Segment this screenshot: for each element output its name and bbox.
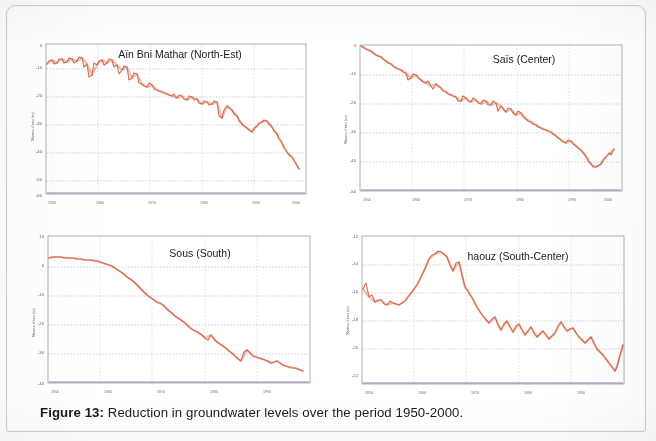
x-tick-label: 1960 bbox=[412, 198, 420, 202]
x-tick-label: 1960 bbox=[104, 390, 112, 394]
x-tick-label: 1990 bbox=[568, 198, 576, 202]
y-tick-label: -14 bbox=[352, 261, 359, 266]
y-tick-label: -30 bbox=[36, 121, 43, 126]
x-axis-ticks: 1950 1960 1970 1980 1990 2000 bbox=[363, 198, 612, 202]
x-tick-label: 1990 bbox=[252, 201, 260, 205]
series-line-shadow bbox=[361, 46, 614, 167]
x-tick-label: 1970 bbox=[148, 201, 156, 205]
y-tick-label: -10 bbox=[350, 71, 357, 76]
x-axis-ticks: 1950 1960 1970 1980 1990 2000 bbox=[48, 201, 300, 205]
series-line-shadow bbox=[47, 58, 299, 169]
x-tick-label: 1980 bbox=[516, 198, 524, 202]
x-axis-ticks: 1950 1960 1970 1980 1990 bbox=[365, 391, 585, 395]
x-tick-label: 1970 bbox=[464, 198, 472, 202]
chart-svg-haouz: -12 -14 -16 -18 -20 -22 Niveau d'eau (m) bbox=[340, 227, 640, 402]
y-tick-label: -22 bbox=[352, 373, 359, 378]
y-tick-label: -16 bbox=[352, 289, 359, 294]
y-tick-label: -40 bbox=[36, 149, 43, 154]
chart-svg-sous: 10 0 -10 -20 -30 -40 Niveau d'eau (m) bbox=[28, 227, 328, 402]
y-axis-ticks: 10 0 -10 -20 -30 -40 bbox=[38, 234, 45, 386]
y-axis-ticks: 0 -10 -20 -30 -40 -50 -60 bbox=[36, 43, 43, 198]
y-tick-label: -12 bbox=[352, 234, 359, 239]
y-tick-label: -50 bbox=[36, 177, 43, 182]
y-axis-ticks: -12 -14 -16 -18 -20 -22 bbox=[352, 234, 359, 378]
y-tick-label: 0 bbox=[40, 43, 43, 48]
x-tick-label: 2000 bbox=[292, 201, 300, 205]
x-tick-label: 1950 bbox=[363, 198, 371, 202]
chart-panel-ain-bni-mathar: 0 -10 -20 -30 -40 -50 -60 Niveau d'eau (… bbox=[28, 36, 328, 211]
y-tick-label: 0 bbox=[354, 43, 357, 48]
plot-frame bbox=[360, 45, 622, 191]
y-tick-label: -20 bbox=[350, 100, 357, 105]
y-tick-label: -20 bbox=[36, 93, 43, 98]
series-line-sais bbox=[361, 46, 614, 167]
x-tick-label: 1960 bbox=[96, 201, 104, 205]
y-axis-title: Niveau d'eau (m) bbox=[31, 111, 35, 141]
panel-title-sous: Sous (South) bbox=[169, 247, 230, 259]
y-tick-label: -20 bbox=[352, 345, 359, 350]
figure-caption-label: Figure 13: bbox=[40, 405, 104, 420]
x-tick-label: 1980 bbox=[524, 391, 532, 395]
panel-title-sais: Saïs (Center) bbox=[493, 53, 555, 65]
y-axis-ticks: 0 -10 -20 -30 -40 -50 bbox=[350, 43, 357, 194]
y-tick-label: -10 bbox=[38, 292, 45, 297]
series-line-haouz bbox=[363, 251, 623, 371]
y-tick-label: 10 bbox=[39, 234, 44, 239]
x-tick-label: 1970 bbox=[471, 391, 479, 395]
x-tick-label: 1970 bbox=[157, 390, 165, 394]
x-tick-label: 1950 bbox=[365, 391, 373, 395]
chart-svg-ain-bni-mathar: 0 -10 -20 -30 -40 -50 -60 Niveau d'eau (… bbox=[28, 36, 328, 211]
chart-svg-sais: 0 -10 -20 -30 -40 -50 Niveau d'eau (m) bbox=[340, 36, 640, 211]
y-tick-label: -30 bbox=[38, 350, 45, 355]
x-tick-label: 2000 bbox=[604, 198, 612, 202]
y-axis-title: Niveau d'eau (m) bbox=[344, 114, 348, 144]
y-tick-label: -50 bbox=[350, 189, 357, 194]
y-tick-label: -30 bbox=[350, 129, 357, 134]
series-line-ain-bni-mathar bbox=[47, 57, 299, 169]
x-tick-label: 1950 bbox=[48, 201, 56, 205]
y-tick-label: -10 bbox=[36, 65, 43, 70]
y-tick-label: -40 bbox=[350, 158, 357, 163]
figure-caption: Figure 13: Reduction in groundwater leve… bbox=[40, 405, 620, 420]
x-axis-ticks: 1950 1960 1970 1980 1990 bbox=[51, 390, 271, 394]
x-tick-label: 1950 bbox=[51, 390, 59, 394]
x-tick-label: 1990 bbox=[577, 391, 585, 395]
y-tick-label: 0 bbox=[42, 263, 45, 268]
y-tick-label: -18 bbox=[352, 317, 359, 322]
x-tick-label: 1960 bbox=[418, 391, 426, 395]
series-line-shadow bbox=[363, 252, 623, 371]
y-tick-label: -40 bbox=[38, 381, 45, 386]
panel-title-ain-bni-mathar: Aïn Bni Mathar (North-Est) bbox=[118, 48, 242, 60]
x-tick-label: 1990 bbox=[263, 390, 271, 394]
x-tick-label: 1980 bbox=[200, 201, 208, 205]
figure-caption-text: Reduction in groundwater levels over the… bbox=[104, 405, 463, 420]
figure-page: 0 -10 -20 -30 -40 -50 -60 Niveau d'eau (… bbox=[0, 0, 656, 441]
x-tick-label: 1980 bbox=[210, 390, 218, 394]
chart-panel-haouz: -12 -14 -16 -18 -20 -22 Niveau d'eau (m) bbox=[340, 227, 640, 402]
y-tick-label: -60 bbox=[36, 193, 43, 198]
plot-grid bbox=[360, 45, 622, 191]
panel-title-haouz: haouz (South-Center) bbox=[468, 250, 569, 262]
chart-panel-sais: 0 -10 -20 -30 -40 -50 Niveau d'eau (m) bbox=[340, 36, 640, 211]
y-axis-title: Niveau d'eau (m) bbox=[32, 307, 36, 337]
y-axis-title: Niveau d'eau (m) bbox=[346, 305, 350, 335]
y-tick-label: -20 bbox=[38, 321, 45, 326]
chart-panel-sous: 10 0 -10 -20 -30 -40 Niveau d'eau (m) bbox=[28, 227, 328, 402]
